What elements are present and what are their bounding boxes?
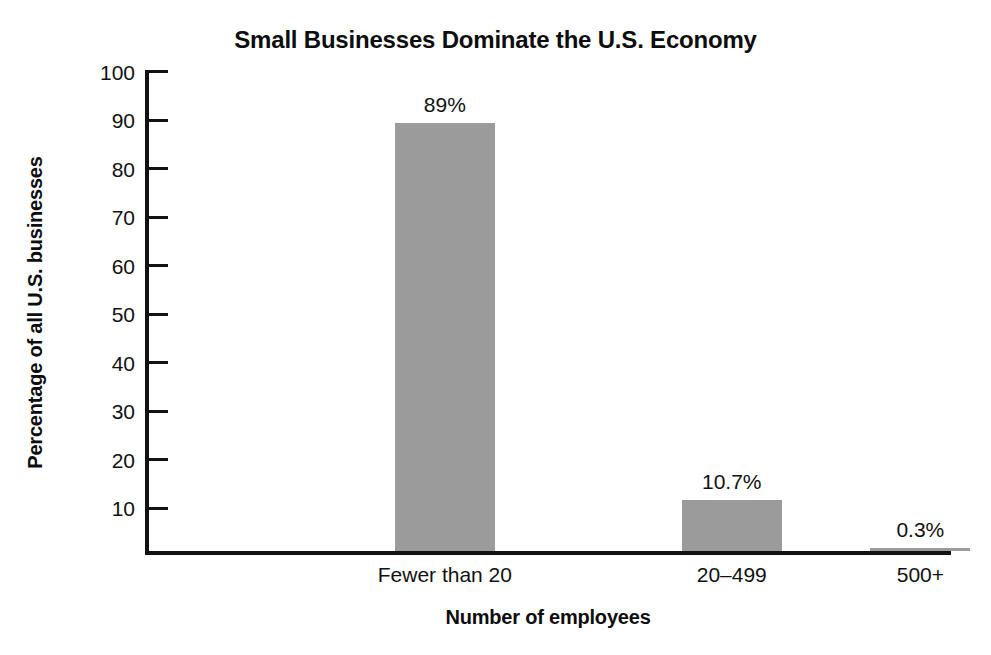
bar: [395, 123, 495, 551]
y-axis-tick-label: 100: [100, 61, 135, 82]
bar-group: 10.7%: [682, 70, 782, 551]
bar-group: 89%: [395, 70, 495, 551]
y-axis-tick-label: 50: [112, 304, 135, 325]
x-axis-category-label: 20–499: [697, 563, 767, 587]
y-axis-title-wrap: Percentage of all U.S. businesses: [17, 70, 53, 555]
bar-value-label: 10.7%: [702, 471, 762, 492]
x-axis-category-label: 500+: [897, 563, 944, 587]
x-axis-line: [145, 551, 951, 555]
bar: [682, 500, 782, 551]
y-axis-tick-label: 60: [112, 255, 135, 276]
y-axis-tick-label: 30: [112, 401, 135, 422]
y-axis-tick-label: 80: [112, 158, 135, 179]
y-axis-tick-label: 40: [112, 352, 135, 373]
bar-chart: Small Businesses Dominate the U.S. Econo…: [0, 0, 991, 655]
y-axis-tick-label: 20: [112, 449, 135, 470]
x-axis-category-label: Fewer than 20: [378, 563, 512, 587]
x-axis-title: Number of employees: [145, 606, 951, 629]
plot-area: 100908070605040302010 89%10.7%0.3%: [145, 70, 951, 555]
y-axis-tick-label: 10: [112, 498, 135, 519]
bar: [870, 548, 970, 551]
y-axis-title: Percentage of all U.S. businesses: [24, 156, 47, 468]
bar-value-label: 0.3%: [896, 519, 944, 540]
bar-value-label: 89%: [424, 94, 466, 115]
y-axis-tick-label: 70: [112, 207, 135, 228]
y-axis-tick-label: 90: [112, 110, 135, 131]
chart-title: Small Businesses Dominate the U.S. Econo…: [0, 26, 991, 54]
x-axis-category-labels: Fewer than 2020–499500+: [145, 563, 951, 597]
bars-layer: 89%10.7%0.3%: [145, 70, 951, 551]
bar-group: 0.3%: [870, 70, 970, 551]
